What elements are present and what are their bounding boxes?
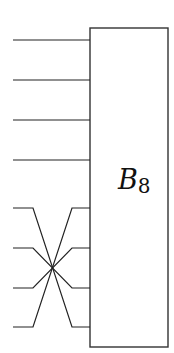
wire-6 bbox=[13, 248, 90, 288]
wire-7 bbox=[13, 248, 90, 288]
reversal-wires bbox=[13, 208, 90, 327]
straight-wires bbox=[13, 40, 90, 160]
block-label-name: B bbox=[118, 164, 138, 195]
block-label-subscript: 8 bbox=[138, 174, 151, 198]
block-label: B8 bbox=[118, 166, 151, 196]
